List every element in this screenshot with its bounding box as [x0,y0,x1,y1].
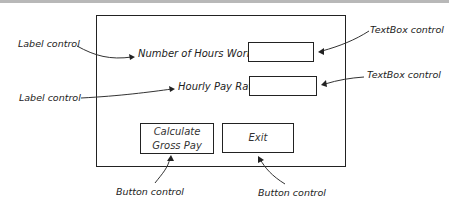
annotation-label-control-2: Label control [19,92,81,103]
exit-button[interactable]: Exit [222,123,294,153]
hourly-pay-rate-label: Hourly Pay Rate [178,81,258,92]
calculate-gross-pay-button[interactable]: Calculate Gross Pay [140,123,214,154]
annotation-label-control-1: Label control [18,38,80,49]
annotation-button-control-1: Button control [116,186,184,197]
annotation-textbox-control-2: TextBox control [367,69,441,80]
hours-worked-label: Number of Hours Worked [138,48,265,59]
annotation-textbox-control-1: TextBox control [370,24,444,35]
top-divider [0,0,449,3]
calculate-button-line1: Calculate [152,125,202,139]
annotation-button-control-2: Button control [258,187,326,198]
calculate-button-line2: Gross Pay [152,139,202,153]
hourly-pay-rate-textbox[interactable] [249,76,317,96]
exit-button-label: Exit [249,131,268,145]
hours-worked-textbox[interactable] [248,42,314,62]
